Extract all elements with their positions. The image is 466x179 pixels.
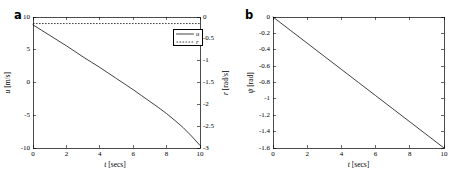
panel-b-xtick-4: 8 bbox=[400, 151, 420, 158]
panel-b: b 0-0.2-0.4-0.6-0.8-1-1.2-1.4-1.6 024681… bbox=[233, 0, 466, 179]
panel-a-legend: u r bbox=[173, 29, 203, 46]
panel-b-ytick-0: 0 bbox=[243, 14, 270, 21]
panel-b-xtick-1: 2 bbox=[297, 151, 317, 158]
panel-a-xtick-5: 10 bbox=[190, 151, 210, 158]
panel-a-left-ylabel: u [m/s] bbox=[4, 60, 12, 104]
figure-container: a 1050-5-10 0-0.5-1-1.5-2-2.5-3 0246810 … bbox=[0, 0, 466, 179]
panel-b-ytick-2: -0.4 bbox=[243, 46, 270, 53]
panel-b-xtick-5: 10 bbox=[434, 151, 454, 158]
panel-b-ylabel: ψ [rad] bbox=[247, 60, 255, 104]
panel-a-left-ytick-0: 10 bbox=[3, 14, 30, 21]
panel-b-ytick-7: -1.4 bbox=[243, 128, 270, 135]
panel-a-xtick-1: 2 bbox=[56, 151, 76, 158]
panel-a-xtick-4: 8 bbox=[157, 151, 177, 158]
panel-b-xtick-2: 4 bbox=[331, 151, 351, 158]
panel-a-xlabel: t [secs] bbox=[60, 161, 170, 169]
panel-a-xtick-2: 4 bbox=[90, 151, 110, 158]
legend-label-u: u bbox=[196, 31, 199, 38]
panel-b-xlabel: t [secs] bbox=[293, 161, 424, 169]
panel-b-ytick-1: -0.2 bbox=[243, 30, 270, 37]
panel-a-left-ytick-3: -5 bbox=[3, 112, 30, 119]
panel-b-ytick-6: -1.2 bbox=[243, 112, 270, 119]
legend-sample-dotted-icon bbox=[176, 39, 194, 45]
panel-a-xtick-0: 0 bbox=[23, 151, 43, 158]
panel-b-xtick-0: 0 bbox=[263, 151, 283, 158]
panel-a-xtick-3: 6 bbox=[123, 151, 143, 158]
panel-a-right-ytick-0: 0 bbox=[203, 14, 225, 21]
legend-label-r: r bbox=[196, 39, 199, 46]
panel-a-right-ytick-5: -2.5 bbox=[203, 123, 225, 130]
panel-a: a 1050-5-10 0-0.5-1-1.5-2-2.5-3 0246810 … bbox=[0, 0, 233, 179]
series-psi-line bbox=[273, 17, 444, 148]
panel-a-right-ytick-1: -0.5 bbox=[203, 35, 225, 42]
panel-a-right-ylabel: r [rad/s] bbox=[222, 55, 230, 109]
panel-b-xtick-3: 6 bbox=[366, 151, 386, 158]
legend-entry-u: u bbox=[174, 30, 202, 38]
legend-sample-solid-icon bbox=[176, 31, 194, 37]
panel-a-left-ytick-1: 5 bbox=[3, 46, 30, 53]
legend-entry-r: r bbox=[174, 38, 202, 46]
